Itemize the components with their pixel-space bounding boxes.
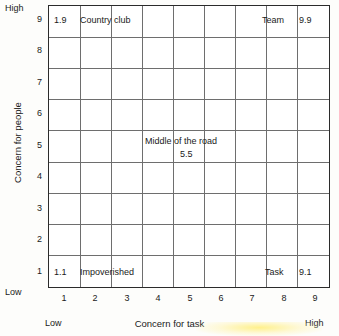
annotation-team-label: Team	[262, 15, 284, 26]
y-tick-7: 7	[30, 77, 42, 87]
y-tick-8: 8	[30, 45, 42, 55]
annotation-middle-code: 5.5	[180, 149, 193, 160]
annotation-country-club-label: Country club	[80, 15, 131, 26]
x-tick-3: 3	[117, 293, 137, 303]
y-tick-9: 9	[30, 14, 42, 24]
plot-area: 1.9 Country club Team 9.9 Middle of the …	[48, 5, 330, 288]
x-tick-6: 6	[211, 293, 231, 303]
x-tick-1: 1	[54, 293, 74, 303]
y-tick-4: 4	[30, 171, 42, 181]
y-tick-1: 1	[30, 266, 42, 276]
annotation-task-label: Task	[265, 267, 284, 278]
annotation-task-code: 9.1	[299, 267, 312, 278]
y-tick-3: 3	[30, 203, 42, 213]
y-tick-5: 5	[30, 140, 42, 150]
x-tick-5: 5	[180, 293, 200, 303]
x-tick-4: 4	[148, 293, 168, 303]
y-axis-title: Concern for people	[12, 83, 23, 203]
x-axis-high-label: High	[305, 318, 324, 328]
y-axis-high-label: High	[5, 3, 24, 13]
annotation-impoverished-label: Impoverished	[80, 267, 134, 278]
x-tick-7: 7	[242, 293, 262, 303]
annotation-impoverished-code: 1.1	[54, 267, 67, 278]
y-tick-6: 6	[30, 108, 42, 118]
x-axis-title: Concern for task	[0, 318, 339, 329]
annotation-team-code: 9.9	[299, 15, 312, 26]
x-tick-8: 8	[274, 293, 294, 303]
y-axis-low-label: Low	[5, 287, 22, 297]
x-tick-9: 9	[305, 293, 325, 303]
annotation-middle-label: Middle of the road	[145, 136, 217, 147]
annotation-country-club-code: 1.9	[54, 15, 67, 26]
x-tick-2: 2	[85, 293, 105, 303]
y-tick-2: 2	[30, 234, 42, 244]
